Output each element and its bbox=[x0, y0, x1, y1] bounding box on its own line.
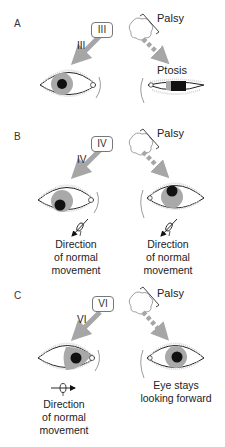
palsy-dashed-arrow-icon bbox=[143, 152, 163, 172]
normal-eye-icon bbox=[38, 186, 98, 214]
caption-line: Direction bbox=[36, 398, 92, 411]
nerve-arrow-label: VI bbox=[77, 314, 86, 326]
palsy-label: Palsy bbox=[157, 12, 184, 24]
nerve-box-iv: IV bbox=[91, 136, 113, 152]
ptosis-label: Ptosis bbox=[157, 64, 187, 76]
caption-line: movement bbox=[36, 424, 92, 437]
caption-line: movement bbox=[140, 264, 196, 277]
caption-line: of normal bbox=[48, 251, 104, 264]
panel-b bbox=[38, 129, 204, 236]
palsy-dashed-arrow-icon bbox=[143, 39, 163, 58]
palsy-eye-icon bbox=[141, 344, 204, 379]
lesion-cloud-icon bbox=[129, 292, 153, 314]
caption-line: Direction bbox=[140, 238, 196, 251]
direction-arrow-icon bbox=[72, 219, 88, 236]
caption-line: of normal bbox=[140, 251, 196, 264]
cranial-nerve-palsy-diagram: A III III Palsy Ptosis B IV IV Palsy Dir… bbox=[0, 0, 225, 447]
palsy-eye-icon bbox=[141, 184, 204, 219]
direction-caption-left: Direction of normal movement bbox=[36, 398, 92, 437]
nerve-box-vi: VI bbox=[92, 296, 114, 312]
panel-letter-b: B bbox=[14, 131, 21, 143]
direction-caption-left: Direction of normal movement bbox=[48, 238, 104, 277]
eye-stays-caption: Eye stays looking forward bbox=[138, 379, 214, 405]
palsy-label: Palsy bbox=[157, 287, 184, 299]
nerve-arrow-label: III bbox=[77, 40, 85, 52]
caption-line: looking forward bbox=[138, 392, 214, 405]
direction-arrow-icon bbox=[51, 384, 75, 397]
palsy-dashed-arrow-icon bbox=[143, 312, 163, 334]
caption-line: movement bbox=[48, 264, 104, 277]
caption-line: of normal bbox=[36, 411, 92, 424]
panel-letter-c: C bbox=[14, 290, 21, 302]
nerve-box-iii: III bbox=[91, 22, 113, 38]
normal-eye-icon bbox=[38, 344, 99, 372]
ptosis-eye-icon bbox=[141, 78, 204, 103]
palsy-label: Palsy bbox=[157, 127, 184, 139]
direction-caption-right: Direction of normal movement bbox=[140, 238, 196, 277]
caption-line: Direction bbox=[48, 238, 104, 251]
caption-line: Eye stays bbox=[138, 379, 214, 392]
panel-a bbox=[40, 14, 204, 103]
direction-arrow-icon bbox=[161, 219, 177, 236]
panel-letter-a: A bbox=[14, 18, 21, 30]
nerve-arrow-label: IV bbox=[77, 154, 86, 166]
normal-eye-icon bbox=[40, 71, 100, 99]
